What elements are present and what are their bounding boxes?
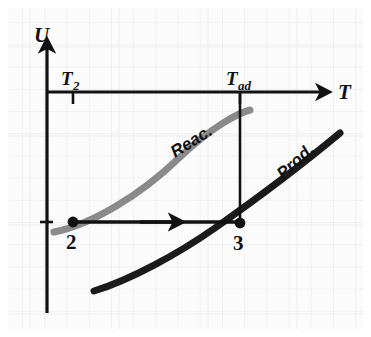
state-label-2: 2 [66,230,77,254]
state-point-2 [68,217,79,228]
energy-temperature-diagram: U T T 2 T ad 2 3 Reac. Prod. [0,0,371,337]
grid-lines [8,8,363,329]
state-label-3: 3 [233,231,244,255]
tick-label-tad-sub: ad [238,78,252,93]
diagram-canvas: U T T 2 T ad 2 3 Reac. Prod. [0,0,371,337]
state-point-3 [235,218,246,229]
tick-label-t2-sub: 2 [72,78,80,93]
x-axis-label: T [338,80,352,104]
y-axis-label: U [34,23,51,47]
